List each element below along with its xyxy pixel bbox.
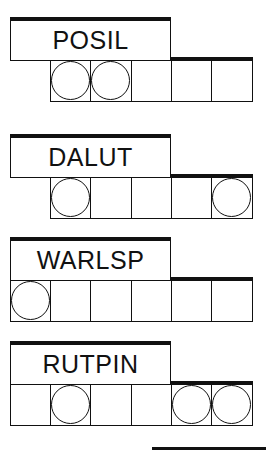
letter-cell[interactable] (171, 57, 213, 102)
answer-cells (10, 384, 252, 426)
circle-marker-icon (51, 61, 90, 100)
circle-marker-icon (91, 61, 130, 100)
circle-marker-icon (51, 385, 90, 424)
scrambled-word: DALUT (10, 134, 171, 178)
circle-marker-icon (51, 178, 90, 217)
letter-cell[interactable] (171, 277, 213, 322)
letter-cell[interactable] (10, 384, 52, 426)
letter-cell[interactable] (171, 174, 213, 219)
jumble-word-3: WARLSP (10, 237, 252, 323)
circle-marker-icon (11, 281, 50, 320)
letter-cell[interactable] (90, 384, 132, 426)
letter-cell[interactable] (131, 280, 173, 322)
jumble-word-1: POSIL (10, 17, 252, 103)
letter-cell[interactable] (10, 280, 52, 322)
answer-cells (10, 60, 252, 102)
letter-cell[interactable] (90, 177, 132, 219)
letter-cell[interactable] (171, 381, 213, 426)
letter-cell[interactable] (131, 60, 173, 102)
letter-cell[interactable] (50, 177, 92, 219)
answer-line (152, 447, 266, 450)
circle-marker-icon (172, 385, 211, 424)
letter-cell[interactable] (90, 60, 132, 102)
letter-cell[interactable] (50, 280, 92, 322)
jumble-word-2: DALUT (10, 134, 252, 220)
letter-cell[interactable] (211, 277, 253, 322)
answer-cells (10, 177, 252, 219)
letter-cell[interactable] (211, 57, 253, 102)
letter-cell[interactable] (131, 384, 173, 426)
scrambled-word: RUTPIN (10, 341, 171, 385)
letter-cell[interactable] (50, 384, 92, 426)
letter-cell[interactable] (90, 280, 132, 322)
circle-marker-icon (212, 385, 251, 424)
scrambled-word: WARLSP (10, 237, 171, 281)
answer-cells (10, 280, 252, 322)
jumble-word-4: RUTPIN (10, 341, 252, 427)
letter-cell[interactable] (211, 174, 253, 219)
letter-cell[interactable] (50, 60, 92, 102)
letter-cell[interactable] (211, 381, 253, 426)
scrambled-word: POSIL (10, 17, 171, 61)
letter-cell[interactable] (131, 177, 173, 219)
circle-marker-icon (212, 178, 251, 217)
